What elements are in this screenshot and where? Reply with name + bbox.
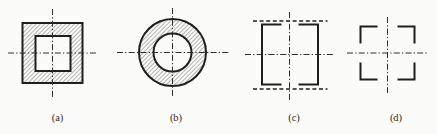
- figure-d: (d): [347, 17, 428, 124]
- figure-a: (a): [8, 9, 97, 124]
- figure-label-b: (b): [170, 112, 183, 124]
- figure-c: (c): [245, 12, 334, 124]
- drawing-canvas: (a) (b) (c) (d): [0, 0, 437, 134]
- figure-label-a: (a): [52, 112, 64, 124]
- figure-b: (b): [117, 8, 230, 124]
- engineering-drawing-figure: (a) (b) (c) (d): [0, 0, 437, 134]
- figure-label-c: (c): [288, 112, 300, 124]
- corner-top-right: [398, 27, 415, 44]
- figure-label-d: (d): [390, 112, 403, 124]
- corner-bottom-right: [398, 63, 415, 80]
- corner-bottom-left: [361, 63, 378, 80]
- corner-top-left: [361, 27, 378, 44]
